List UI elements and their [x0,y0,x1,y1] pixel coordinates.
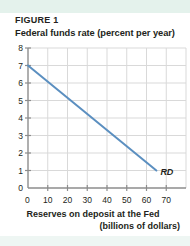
y-tick-label: 5 [9,97,23,106]
x-tick-label: 60 [137,196,157,205]
x-tick-label: 20 [58,196,78,205]
x-axis-title: Reserves on deposit at the Fed (billions… [0,209,186,232]
figure-panel: FIGURE 1 Federal funds rate (percent per… [0,0,190,246]
x-tick-label: 70 [156,196,176,205]
x-axis-title-line2: (billions of dollars) [0,221,186,233]
decorative-bottom-band [0,236,190,246]
y-tick-label: 3 [9,132,23,141]
x-tick-label: 10 [38,196,58,205]
x-tick-label: 50 [117,196,137,205]
y-tick-label: 7 [9,62,23,71]
curve-label-rd: RD [160,167,173,177]
decorative-top-band [0,0,190,13]
y-tick-label: 6 [9,79,23,88]
y-tick-label: 1 [9,167,23,176]
y-tick-label: 2 [9,149,23,158]
y-axis-title: Federal funds rate (percent per year) [15,28,175,38]
x-tick-label: 40 [97,196,117,205]
y-tick-label: 0 [9,184,23,193]
y-tick-label: 4 [9,114,23,123]
origin-label: 0 [25,196,30,205]
y-tick-label: 8 [9,44,23,53]
figure-number-label: FIGURE 1 [15,15,59,25]
x-tick-label: 30 [77,196,97,205]
x-axis-title-line1: Reserves on deposit at the Fed [26,209,159,219]
